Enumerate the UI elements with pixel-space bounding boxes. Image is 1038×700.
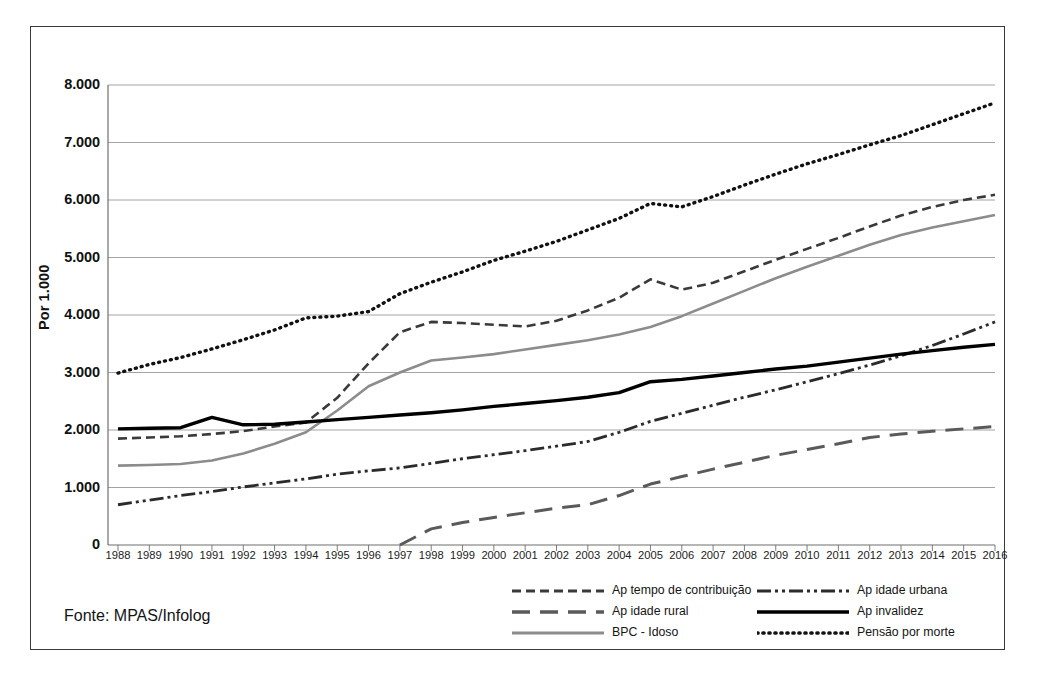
series-line-4 [118, 344, 995, 429]
series-line-5 [118, 103, 995, 373]
series-line-1 [400, 427, 995, 545]
legend-item: Ap invalidez [757, 601, 997, 622]
legend-line-swatch [512, 606, 604, 618]
legend-label: Pensão por morte [857, 626, 955, 638]
legend-item: Ap idade rural [512, 601, 752, 622]
y-tick-label: 1.000 [38, 479, 100, 495]
legend-line-swatch [757, 606, 849, 618]
legend-label: Ap tempo de contribuição [612, 584, 751, 596]
series-line-2 [118, 215, 995, 466]
x-tick-label: 2016 [975, 549, 1015, 561]
legend-label: Ap idade urbana [857, 584, 947, 596]
figure-root: Por 1.000 01.0002.0003.0004.0005.0006.00… [0, 0, 1038, 700]
legend-column-left: Ap tempo de contribuiçãoAp idade ruralBP… [512, 580, 752, 643]
chart-legend: Ap tempo de contribuiçãoAp idade ruralBP… [512, 580, 992, 642]
y-tick-label: 6.000 [38, 191, 100, 207]
legend-label: Ap idade rural [612, 605, 689, 617]
series-line-3 [118, 322, 995, 505]
gridlines [108, 85, 995, 545]
legend-line-swatch [512, 627, 604, 639]
legend-line-swatch [512, 585, 604, 597]
legend-column-right: Ap idade urbanaAp invalidezPensão por mo… [757, 580, 997, 643]
legend-item: BPC - Idoso [512, 622, 752, 643]
legend-line-swatch [757, 627, 849, 639]
y-tick-label: 0 [38, 536, 100, 552]
source-note: Fonte: MPAS/Infolog [64, 607, 210, 625]
legend-item: Ap tempo de contribuição [512, 580, 752, 601]
legend-item: Pensão por morte [757, 622, 997, 643]
y-tick-label: 7.000 [38, 134, 100, 150]
legend-label: Ap invalidez [857, 605, 923, 617]
y-tick-label: 2.000 [38, 421, 100, 437]
series-lines [118, 103, 995, 545]
legend-line-swatch [757, 585, 849, 597]
y-tick-label: 3.000 [38, 364, 100, 380]
y-tick-label: 8.000 [38, 76, 100, 92]
y-tick-label: 4.000 [38, 306, 100, 322]
legend-item: Ap idade urbana [757, 580, 997, 601]
legend-label: BPC - Idoso [612, 626, 678, 638]
y-tick-label: 5.000 [38, 249, 100, 265]
